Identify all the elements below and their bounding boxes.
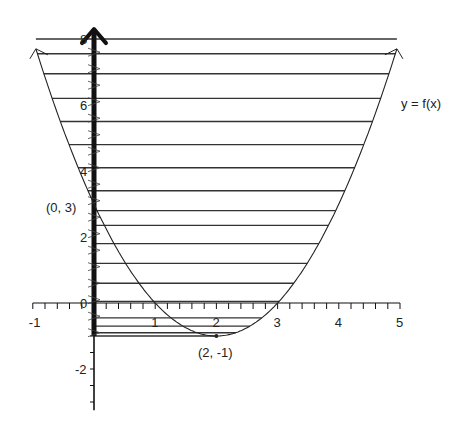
plot-canvas: -1012345-22468 y = f(x) (0, 3) (2, -1) xyxy=(0,0,475,436)
parabola-figure: -1012345-22468 y = f(x) (0, 3) (2, -1) xyxy=(0,0,475,436)
vertex-label: (2, -1) xyxy=(198,345,233,360)
y-tick-label: 4 xyxy=(80,164,87,179)
axis-labels: -1012345-22468 xyxy=(29,32,403,377)
x-tick-label: 0 xyxy=(80,296,87,311)
y-intercept-label: (0, 3) xyxy=(46,200,76,215)
function-label: y = f(x) xyxy=(401,96,441,111)
x-tick-label: 2 xyxy=(212,315,219,330)
vertex-point xyxy=(214,334,218,338)
parabola-curve xyxy=(30,49,403,338)
y-tick-label: 8 xyxy=(80,32,87,47)
y-tick-label: 6 xyxy=(80,98,87,113)
x-tick-label: 5 xyxy=(396,315,403,330)
y-tick-label: -2 xyxy=(75,362,87,377)
y-tick-label: 2 xyxy=(80,230,87,245)
x-tick-label: 3 xyxy=(274,315,281,330)
x-tick-label: -1 xyxy=(29,315,41,330)
parabola-path xyxy=(36,49,397,336)
x-tick-label: 4 xyxy=(335,315,342,330)
x-tick-label: 1 xyxy=(151,315,158,330)
